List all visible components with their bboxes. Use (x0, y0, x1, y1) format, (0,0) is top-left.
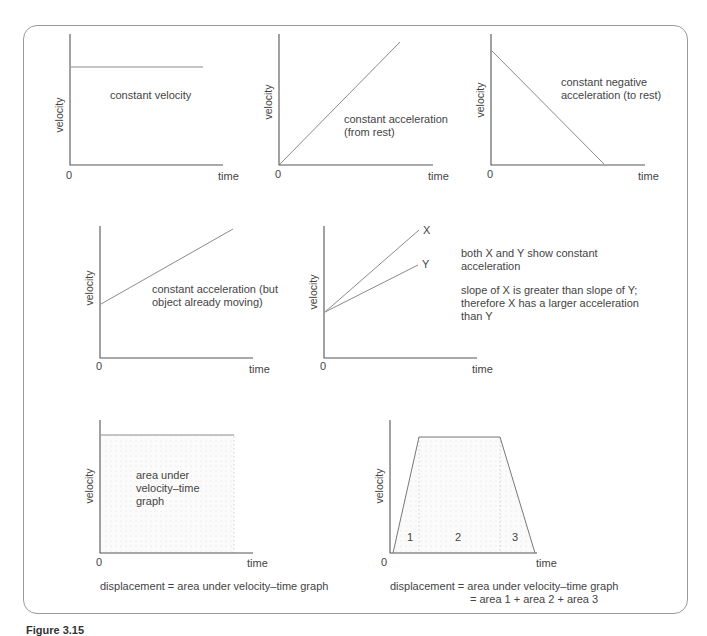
figure-caption: Figure 3.15 (26, 624, 84, 636)
graph-label-line-2: acceleration (to rest) (561, 89, 661, 101)
area-label-line-1: area under (136, 469, 190, 481)
x-axis-label: time (247, 557, 268, 569)
region-2-label: 2 (455, 531, 461, 543)
x-axis-label: time (638, 170, 659, 182)
graph-label: constant velocity (110, 89, 192, 101)
origin-label: 0 (381, 556, 387, 568)
graph-label-line-2: (from rest) (344, 126, 395, 138)
caption-line-2: = area 1 + area 2 + area 3 (470, 593, 598, 605)
y-axis-label: velocity (53, 97, 65, 133)
region-3-label: 3 (512, 531, 518, 543)
origin-label: 0 (96, 360, 102, 372)
note-2-line-3: than Y (461, 310, 493, 322)
series-x-label: X (423, 224, 431, 236)
y-axis-label: velocity (83, 468, 95, 504)
origin-label: 0 (487, 168, 493, 180)
y-axis-label: velocity (474, 82, 486, 118)
graph-label-line-1: constant negative (561, 76, 647, 88)
shaded-area (101, 436, 234, 553)
velocity-line (492, 51, 604, 164)
note-2-line-1: slope of X is greater than slope of Y; (461, 284, 637, 296)
note-2-line-2: therefore X has a larger acceleration (461, 297, 639, 309)
origin-label: 0 (275, 168, 281, 180)
y-axis-label: velocity (83, 270, 95, 306)
x-axis-label: time (536, 557, 557, 569)
y-axis (279, 34, 433, 165)
caption: displacement = area under velocity–time … (100, 580, 328, 592)
caption-line-1: displacement = area under velocity–time … (390, 580, 618, 592)
graph-constant-negative-acceleration: velocity 0 time constant negative accele… (474, 34, 661, 182)
region-1-label: 1 (407, 531, 413, 543)
area-label-line-2: velocity–time (136, 482, 200, 494)
note-1-line-1: both X and Y show constant (461, 247, 598, 259)
note-1-line-2: acceleration (461, 260, 520, 272)
x-axis-label: time (218, 170, 239, 182)
y-axis-label: velocity (307, 274, 319, 310)
graph-compare-x-y: X Y velocity 0 time both X and Y show co… (307, 224, 639, 375)
x-axis-label: time (428, 170, 449, 182)
graph-label-line-2: object already moving) (152, 296, 263, 308)
origin-label: 0 (320, 360, 326, 372)
graph-area-trapezoid: velocity 0 time 1 2 3 displacement = are… (373, 420, 618, 605)
graph-constant-acceleration-moving: velocity 0 time constant acceleration (b… (83, 226, 278, 375)
graph-constant-acceleration-from-rest: velocity 0 time constant acceleration (f… (262, 34, 449, 182)
graph-area-under: velocity 0 time area under velocity–time… (83, 420, 328, 592)
origin-label: 0 (96, 556, 102, 568)
series-x-line (325, 230, 419, 312)
velocity-line (280, 42, 400, 164)
graph-label-line-1: constant acceleration (but (152, 283, 278, 295)
origin-label: 0 (66, 169, 72, 181)
x-axis-label: time (249, 363, 270, 375)
series-y-label: Y (422, 258, 430, 270)
area-label-line-3: graph (136, 495, 164, 507)
y-axis-label: velocity (373, 468, 385, 504)
y-axis-label: velocity (262, 84, 274, 120)
x-axis-label: time (472, 363, 493, 375)
graph-constant-velocity: velocity 0 time constant velocity (53, 34, 239, 182)
graph-label-line-1: constant acceleration (344, 113, 448, 125)
